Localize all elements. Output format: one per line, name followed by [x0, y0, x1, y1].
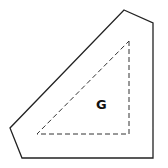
outer-pentagon: [10, 10, 153, 158]
geometry-diagram: G: [0, 0, 168, 168]
inner-dashed-triangle: [37, 41, 129, 134]
region-label-g: G: [96, 97, 107, 112]
